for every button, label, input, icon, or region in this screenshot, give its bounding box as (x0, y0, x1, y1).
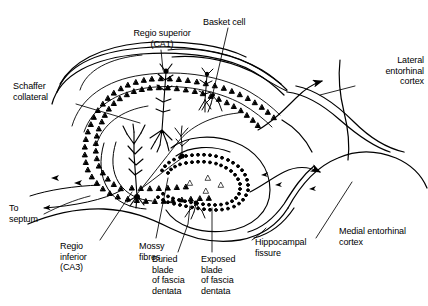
ca1-strata-lines (72, 73, 280, 146)
subiculum-contours (28, 208, 288, 241)
septal-arrowheads (51, 175, 82, 186)
label-basket-cell: Basket cell (203, 17, 283, 28)
label-schaffer-collateral: Schaffer collateral (13, 81, 85, 102)
label-to-septum: To septum (9, 203, 59, 224)
entorhinal-outline (248, 86, 427, 238)
ca1-pyramidal-neuron (150, 64, 173, 152)
perforant-path-lower (250, 168, 320, 193)
label-regio-inferior: Regio inferior (CA3) (60, 241, 120, 273)
label-lateral-entorhinal-cortex: Lateral entorhinal cortex (352, 55, 424, 87)
label-regio-superior: Regio superior (CA1) (106, 28, 218, 49)
label-buried-blade: Buried blade of fascia dentata (152, 254, 204, 296)
hippocampus-diagram: Regio superior (CA1) Basket cell Lateral… (0, 0, 428, 306)
label-exposed-blade: Exposed blade of fascia dentata (201, 254, 259, 296)
granule-neuron-upper (175, 126, 189, 159)
hilar-cells (187, 175, 223, 193)
label-medial-entorhinal-cortex: Medial entorhinal cortex (339, 226, 428, 247)
fimbria-bundle (168, 49, 287, 91)
label-hippocampal-fissure: Hippocampal fissure (255, 237, 327, 258)
leader-lines (44, 28, 355, 252)
hilus-pyramidal-row (130, 184, 189, 190)
ca3-pyramidal-neuron (123, 124, 145, 208)
